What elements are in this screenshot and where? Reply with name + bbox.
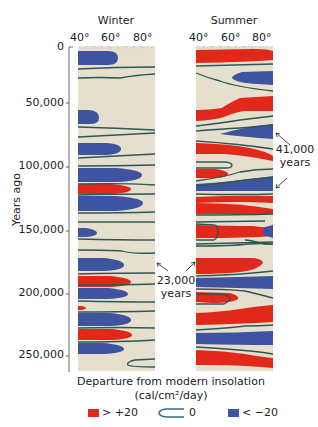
y-axis (66, 47, 73, 372)
annotation-23000-value: 23,000 (153, 274, 199, 287)
positive-swatch-icon (88, 409, 99, 417)
legend-negative-label: < −20 (242, 406, 278, 419)
x-axis-title-line1: Departure from modern insolation (12, 375, 318, 389)
legend-zero-contour: 0 (156, 406, 196, 419)
x-axis-title-line2: (cal/cm²/day) (12, 389, 318, 403)
x-axis-title: Departure from modern insolation (cal/cm… (12, 375, 318, 403)
legend-positive: > +20 (88, 406, 138, 419)
contour-swatch-icon (156, 407, 186, 419)
winter-panel (78, 46, 155, 371)
legend-negative: < −20 (228, 406, 278, 419)
annotation-23000-years: 23,000 years (153, 274, 199, 300)
annotation-41000-value: 41,000 (272, 143, 318, 156)
legend-positive-label: > +20 (102, 406, 138, 419)
annotation-41000-unit: years (272, 156, 318, 169)
annotation-41000-years: 41,000 years (272, 143, 318, 169)
insolation-chart (0, 0, 318, 427)
legend-zero-label: 0 (189, 406, 196, 419)
annotation-23000-unit: years (153, 287, 199, 300)
negative-swatch-icon (228, 409, 239, 417)
summer-panel (196, 46, 273, 371)
